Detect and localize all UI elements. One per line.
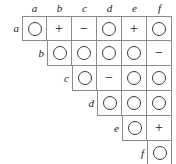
circle-icon [53, 46, 67, 60]
matrix-cell-bc [72, 41, 97, 66]
plus-icon: + [55, 22, 63, 36]
plus-icon: + [130, 22, 138, 36]
column-header-c: c [72, 1, 97, 15]
minus-icon: − [155, 46, 163, 60]
matrix-cell-de [122, 91, 147, 116]
circle-icon [152, 96, 166, 110]
circle-icon [127, 71, 141, 85]
matrix-cell-ac: − [72, 16, 97, 41]
circle-icon [103, 96, 117, 110]
plus-icon: + [155, 121, 163, 135]
column-header-b: b [47, 1, 72, 15]
matrix-cell-cf [147, 66, 172, 91]
circle-icon [78, 71, 92, 85]
minus-icon: − [80, 22, 88, 36]
row-header-b: b [27, 41, 47, 66]
row-header-c: c [52, 66, 72, 91]
symbol-matrix-figure: abcdefa+−+b−c−de+f [0, 0, 176, 164]
matrix-cell-df [147, 91, 172, 116]
matrix-cell-cd: − [97, 66, 122, 91]
column-header-d: d [97, 1, 122, 15]
matrix-cell-cc [72, 66, 97, 91]
circle-icon [152, 22, 166, 36]
row-header-a: a [2, 16, 22, 41]
circle-icon [153, 146, 167, 160]
matrix-cell-ab: + [47, 16, 72, 41]
column-header-f: f [147, 1, 172, 15]
minus-icon: − [105, 71, 113, 85]
matrix-cell-bd [97, 41, 122, 66]
row-header-d: d [77, 91, 97, 116]
matrix-cell-ce [122, 66, 147, 91]
circle-icon [152, 71, 166, 85]
matrix-cell-aa [22, 16, 47, 41]
matrix-cell-ee [122, 116, 147, 141]
matrix-cell-bf: − [147, 41, 172, 66]
matrix-cell-bb [47, 41, 72, 66]
matrix-cell-ef: + [147, 116, 172, 141]
circle-icon [102, 46, 116, 60]
matrix-cell-af [147, 16, 172, 41]
circle-icon [127, 96, 141, 110]
row-header-f: f [127, 141, 147, 164]
column-header-a: a [22, 1, 47, 15]
matrix-cell-dd [97, 91, 122, 116]
column-header-e: e [122, 1, 147, 15]
circle-icon [28, 22, 42, 36]
row-header-e: e [102, 116, 122, 141]
circle-icon [102, 22, 116, 36]
matrix-cell-ae: + [122, 16, 147, 41]
circle-icon [128, 121, 142, 135]
circle-icon [77, 46, 91, 60]
circle-icon [127, 46, 141, 60]
matrix-cell-ff [147, 141, 172, 164]
matrix-cell-be [122, 41, 147, 66]
matrix-cell-ad [97, 16, 122, 41]
